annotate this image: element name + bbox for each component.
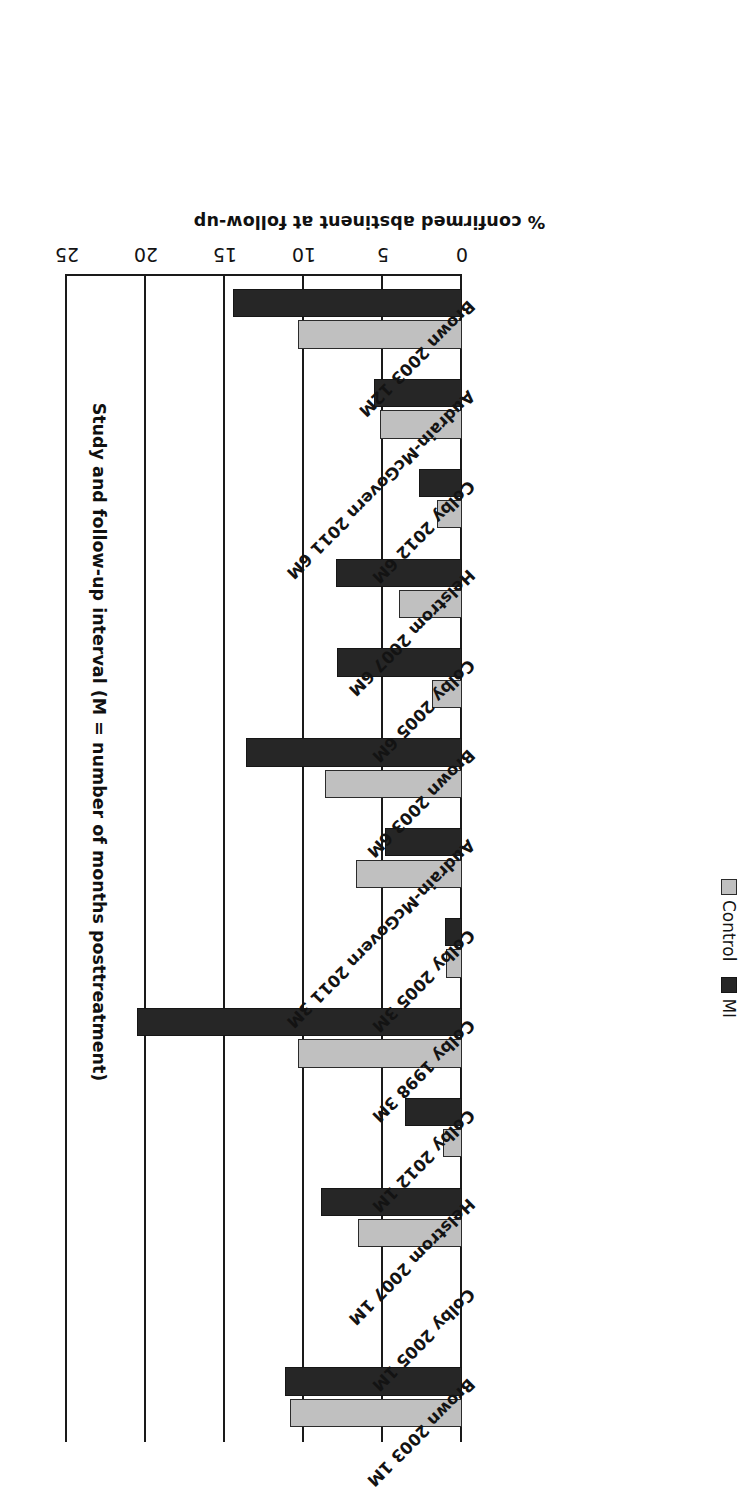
value-axis-title: % confirmed abstinent at follow-up bbox=[0, 212, 739, 232]
mi-swatch-icon bbox=[721, 977, 737, 993]
gridline-20 bbox=[144, 274, 146, 1442]
value-tick-label: 15 bbox=[205, 244, 245, 266]
chart-legend: Control MI bbox=[719, 879, 739, 1079]
legend-item-control: Control bbox=[719, 879, 739, 961]
control-swatch-icon bbox=[721, 879, 737, 895]
value-tick-label: 0 bbox=[442, 244, 482, 266]
rotated-figure-wrapper: 0510152025 Brown 2003 1MColby 2005 1MHel… bbox=[0, 0, 739, 1504]
value-tick-label: 5 bbox=[363, 244, 403, 266]
gridline-10 bbox=[302, 274, 304, 1442]
value-tick-label: 20 bbox=[126, 244, 166, 266]
category-axis-title: Study and follow-up interval (M = number… bbox=[89, 362, 109, 1122]
bar-mi bbox=[246, 738, 462, 766]
value-tick-label: 25 bbox=[47, 244, 87, 266]
legend-label-control: Control bbox=[719, 900, 739, 961]
bar-chart-figure: 0510152025 Brown 2003 1MColby 2005 1MHel… bbox=[0, 0, 739, 1504]
gridline-25 bbox=[65, 274, 67, 1442]
legend-label-mi: MI bbox=[719, 998, 739, 1018]
gridline-5 bbox=[381, 274, 383, 1442]
gridline-15 bbox=[223, 274, 225, 1442]
legend-item-mi: MI bbox=[719, 977, 739, 1018]
bar-mi bbox=[233, 289, 462, 317]
value-tick-label: 10 bbox=[284, 244, 324, 266]
